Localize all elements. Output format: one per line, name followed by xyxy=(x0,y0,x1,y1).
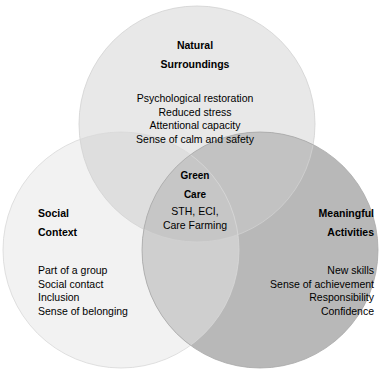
natural-surroundings-item: Reduced stress xyxy=(0,106,390,120)
social-context-items: Part of a group Social contact Inclusion… xyxy=(38,264,128,318)
natural-surroundings-item: Attentional capacity xyxy=(0,119,390,133)
social-context-heading-line2: Context xyxy=(38,223,128,242)
label-natural-surroundings: Natural Surroundings Psychological resto… xyxy=(0,36,390,146)
social-context-item: Inclusion xyxy=(38,291,128,305)
label-social-context: Social Context Part of a group Social co… xyxy=(38,204,128,318)
meaningful-activities-item: New skills xyxy=(270,264,374,278)
natural-surroundings-items: Psychological restoration Reduced stress… xyxy=(0,92,390,146)
diagram-labels: Natural Surroundings Psychological resto… xyxy=(0,0,390,377)
label-meaningful-activities: Meaningful Activities New skills Sense o… xyxy=(270,204,374,318)
meaningful-activities-items: New skills Sense of achievement Responsi… xyxy=(270,264,374,318)
natural-surroundings-item: Sense of calm and safety xyxy=(0,133,390,147)
venn-diagram: Natural Surroundings Psychological resto… xyxy=(0,0,390,377)
green-care-heading-line2: Care xyxy=(0,185,390,204)
meaningful-activities-item: Responsibility xyxy=(270,291,374,305)
social-context-item: Part of a group xyxy=(38,264,128,278)
meaningful-activities-heading-line2: Activities xyxy=(270,223,374,242)
natural-surroundings-heading-line2: Surroundings xyxy=(0,55,390,74)
social-context-item: Sense of belonging xyxy=(38,305,128,319)
social-context-item: Social contact xyxy=(38,278,128,292)
meaningful-activities-item: Confidence xyxy=(270,305,374,319)
natural-surroundings-heading-line1: Natural xyxy=(0,36,390,55)
meaningful-activities-item: Sense of achievement xyxy=(270,278,374,292)
meaningful-activities-heading-line1: Meaningful xyxy=(270,204,374,223)
natural-surroundings-item: Psychological restoration xyxy=(0,92,390,106)
social-context-heading-line1: Social xyxy=(38,204,128,223)
green-care-heading-line1: Green xyxy=(0,166,390,185)
